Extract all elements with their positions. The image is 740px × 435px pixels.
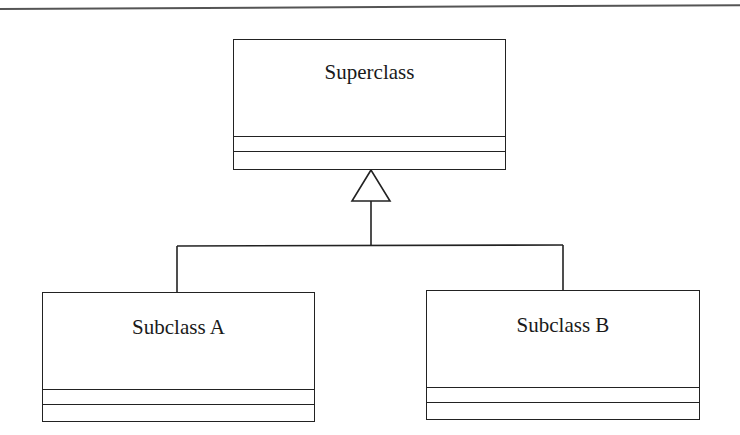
- branch-line: [177, 245, 563, 246]
- class-box-subclass-b[interactable]: Subclass B: [426, 290, 700, 420]
- class-box-superclass[interactable]: Superclass: [233, 39, 506, 170]
- operations-divider: [43, 404, 314, 405]
- class-name: Subclass A: [43, 315, 314, 340]
- attributes-divider: [234, 136, 505, 137]
- generalization-arrowhead-icon: [352, 170, 390, 201]
- class-name: Superclass: [234, 60, 505, 85]
- attributes-divider: [427, 387, 699, 388]
- class-name: Subclass B: [427, 313, 699, 338]
- attributes-divider: [43, 389, 314, 390]
- operations-divider: [234, 151, 505, 152]
- operations-divider: [427, 402, 699, 403]
- class-box-subclass-a[interactable]: Subclass A: [42, 292, 315, 422]
